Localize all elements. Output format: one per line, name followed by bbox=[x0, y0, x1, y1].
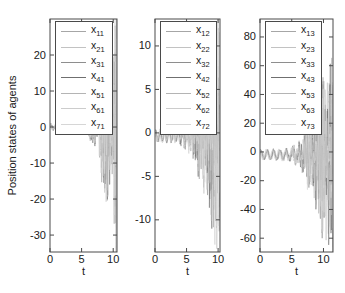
legend-label: x73 bbox=[301, 117, 315, 132]
legend-label: x32 bbox=[196, 55, 210, 70]
legend-label: x62 bbox=[196, 101, 210, 116]
legend-line-sample bbox=[61, 108, 86, 109]
legend-entry-x63: x63 bbox=[271, 102, 321, 116]
legend-entry-x53: x53 bbox=[271, 86, 321, 100]
y-tick-label: 0 bbox=[40, 121, 46, 133]
legend-line-sample bbox=[271, 77, 296, 78]
legend-line-sample bbox=[271, 93, 296, 94]
y-tick-label: -20 bbox=[30, 193, 46, 205]
legend-2: x12x22x32x42x52x62x72 bbox=[160, 21, 217, 135]
x-axis-label: t bbox=[295, 265, 298, 277]
x-tick-label: 0 bbox=[152, 253, 158, 265]
y-tick-label: -20 bbox=[240, 174, 256, 186]
legend-entry-x41: x41 bbox=[61, 71, 112, 85]
y-tick-label: 10 bbox=[139, 39, 151, 51]
x-axis-label: t bbox=[186, 265, 189, 277]
legend-label: x42 bbox=[196, 70, 210, 85]
y-tick-label: 20 bbox=[244, 117, 256, 129]
legend-line-sample bbox=[166, 77, 191, 78]
legend-label: x31 bbox=[91, 55, 105, 70]
legend-entry-x13: x13 bbox=[271, 25, 321, 39]
legend-label: x12 bbox=[196, 24, 210, 39]
y-tick-label: 0 bbox=[145, 126, 151, 138]
y-tick-label: 10 bbox=[34, 85, 46, 97]
legend-entry-x11: x11 bbox=[61, 25, 112, 39]
legend-line-sample bbox=[271, 47, 296, 48]
legend-label: x21 bbox=[91, 40, 105, 55]
legend-label: x51 bbox=[91, 86, 105, 101]
x-tick-label: 10 bbox=[317, 253, 329, 265]
legend-entry-x21: x21 bbox=[61, 40, 112, 54]
legend-label: x61 bbox=[91, 101, 105, 116]
legend-entry-x72: x72 bbox=[166, 117, 216, 131]
y-tick-label: -60 bbox=[240, 232, 256, 244]
legend-line-sample bbox=[166, 47, 191, 48]
legend-line-sample bbox=[61, 77, 86, 78]
y-tick-label: 5 bbox=[145, 83, 151, 95]
legend-line-sample bbox=[271, 31, 296, 32]
legend-label: x53 bbox=[301, 86, 315, 101]
y-tick-label: 80 bbox=[244, 30, 256, 42]
y-tick-label: -40 bbox=[240, 203, 256, 215]
figure: Position states of agents 051020100-10-2… bbox=[0, 0, 345, 293]
legend-1: x11x21x31x41x51x61x71 bbox=[55, 21, 113, 135]
legend-line-sample bbox=[166, 108, 191, 109]
legend-label: x13 bbox=[301, 24, 315, 39]
legend-label: x71 bbox=[91, 117, 105, 132]
legend-line-sample bbox=[166, 62, 191, 63]
legend-entry-x62: x62 bbox=[166, 102, 216, 116]
x-tick-label: 5 bbox=[183, 253, 189, 265]
y-tick-label: 20 bbox=[34, 49, 46, 61]
x-axis-label: t bbox=[82, 265, 85, 277]
legend-entry-x52: x52 bbox=[166, 86, 216, 100]
legend-label: x22 bbox=[196, 40, 210, 55]
legend-entry-x33: x33 bbox=[271, 56, 321, 70]
legend-label: x11 bbox=[91, 24, 104, 39]
x-tick-label: 10 bbox=[212, 253, 224, 265]
legend-entry-x12: x12 bbox=[166, 25, 216, 39]
y-tick-label: -10 bbox=[135, 213, 151, 225]
y-tick-label: -10 bbox=[30, 157, 46, 169]
x-tick-label: 10 bbox=[107, 253, 119, 265]
legend-entry-x23: x23 bbox=[271, 40, 321, 54]
legend-entry-x31: x31 bbox=[61, 56, 112, 70]
legend-line-sample bbox=[166, 93, 191, 94]
y-tick-label: 0 bbox=[250, 145, 256, 157]
y-tick-label: -5 bbox=[141, 170, 151, 182]
legend-entry-x32: x32 bbox=[166, 56, 216, 70]
legend-entry-x43: x43 bbox=[271, 71, 321, 85]
legend-line-sample bbox=[271, 108, 296, 109]
legend-line-sample bbox=[271, 124, 296, 125]
legend-3: x13x23x33x43x53x63x73 bbox=[265, 21, 322, 135]
legend-line-sample bbox=[166, 31, 191, 32]
legend-line-sample bbox=[166, 124, 191, 125]
legend-line-sample bbox=[61, 31, 86, 32]
y-tick-label: 60 bbox=[244, 59, 256, 71]
x-tick-label: 0 bbox=[257, 253, 263, 265]
legend-label: x52 bbox=[196, 86, 210, 101]
x-tick-label: 0 bbox=[47, 253, 53, 265]
legend-line-sample bbox=[61, 47, 86, 48]
legend-label: x63 bbox=[301, 101, 315, 116]
legend-entry-x42: x42 bbox=[166, 71, 216, 85]
x-tick-label: 5 bbox=[289, 253, 295, 265]
legend-label: x72 bbox=[196, 117, 210, 132]
legend-line-sample bbox=[61, 124, 86, 125]
legend-line-sample bbox=[61, 93, 86, 94]
legend-label: x41 bbox=[91, 70, 105, 85]
y-tick-label: 40 bbox=[244, 88, 256, 100]
legend-label: x43 bbox=[301, 70, 315, 85]
legend-line-sample bbox=[271, 62, 296, 63]
legend-label: x23 bbox=[301, 40, 315, 55]
legend-entry-x73: x73 bbox=[271, 117, 321, 131]
legend-entry-x51: x51 bbox=[61, 86, 112, 100]
legend-label: x33 bbox=[301, 55, 315, 70]
legend-line-sample bbox=[61, 62, 86, 63]
legend-entry-x61: x61 bbox=[61, 102, 112, 116]
legend-entry-x71: x71 bbox=[61, 117, 112, 131]
x-tick-label: 5 bbox=[79, 253, 85, 265]
legend-entry-x22: x22 bbox=[166, 40, 216, 54]
y-tick-label: -30 bbox=[30, 229, 46, 241]
